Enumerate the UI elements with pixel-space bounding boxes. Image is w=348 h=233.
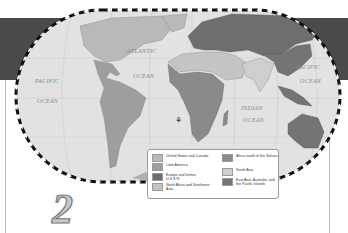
legend-label: Europe and former U.S.S.R.	[166, 173, 210, 181]
legend-item-east-asia-pacific: East Asia, Australia, and the Pacific Is…	[222, 178, 280, 186]
legend-label: North Africa and Southwest Asia	[166, 183, 210, 191]
legend-swatch	[222, 168, 233, 176]
atlantic-ocean-label: OCEAN	[133, 73, 154, 79]
legend-swatch	[152, 154, 163, 162]
left-margin-rule	[5, 80, 6, 233]
legend-label: United States and Canada	[166, 154, 210, 158]
legend-swatch	[152, 183, 163, 191]
legend-swatch	[222, 178, 233, 186]
legend-label: East Asia, Australia, and the Pacific Is…	[236, 178, 280, 186]
legend-item-south-asia: South Asia	[222, 168, 280, 176]
legend-label: South Asia	[236, 168, 280, 172]
legend-item-latin-america: Latin America	[152, 163, 210, 171]
indian-ocean-label: OCEAN	[243, 117, 264, 123]
legend-swatch	[152, 173, 163, 181]
legend-item-europe-ussr: Europe and former U.S.S.R.	[152, 173, 210, 181]
pacific-east-label: PACIFIC	[296, 64, 320, 70]
legend-item-north-africa-sw-asia: North Africa and Southwest Asia	[152, 183, 210, 191]
atlantic-label: ATLANTIC	[127, 48, 157, 54]
map-legend: United States and Canada Latin America E…	[147, 149, 279, 199]
legend-label: Latin America	[166, 163, 210, 167]
pacific-west-label: PACIFIC	[35, 78, 59, 84]
compass-rose-icon: ⚘	[174, 116, 182, 125]
pacific-east-ocean-label: OCEAN	[300, 78, 321, 84]
legend-label: Africa south of the Sahara	[236, 154, 280, 158]
legend-item-us-canada: United States and Canada	[152, 154, 210, 162]
legend-item-africa-south-sahara: Africa south of the Sahara	[222, 154, 280, 162]
pacific-west-ocean-label: OCEAN	[37, 98, 58, 104]
indian-label: INDIAN	[241, 105, 263, 111]
legend-swatch	[152, 163, 163, 171]
chapter-number: 2	[52, 188, 73, 230]
legend-swatch	[222, 154, 233, 162]
